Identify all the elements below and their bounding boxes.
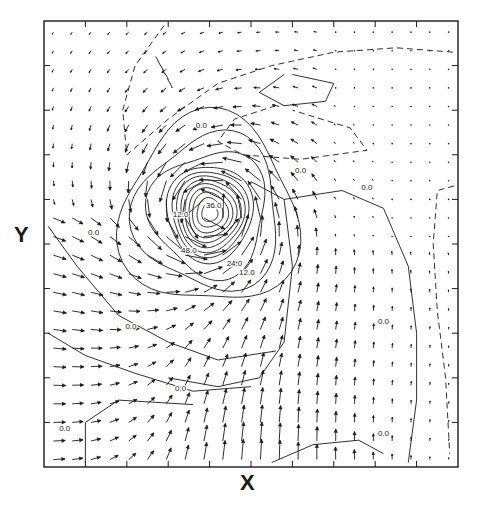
contour-label: 0.0 (361, 183, 373, 192)
contour-label: 0.0 (88, 228, 100, 237)
contour-label: 24.0 (227, 259, 243, 268)
plot-frame (44, 21, 458, 467)
y-axis-label: Y (14, 222, 29, 248)
contour-label: 0.0 (378, 429, 390, 438)
contour-label: 0.0 (59, 424, 71, 433)
contour-label: 12.0 (173, 210, 189, 219)
contour-label: 0.0 (125, 322, 137, 331)
contour-lines (48, 26, 454, 463)
contour-label: 0.0 (378, 317, 390, 326)
vector-field-plot: 0.00.00.012.036.048.024.012.00.00.00.00.… (0, 0, 477, 509)
contour-label: 48.0 (181, 246, 197, 255)
contour-label: 0.0 (175, 384, 187, 393)
wind-vectors (52, 31, 449, 461)
contour-label: 12.0 (239, 268, 255, 277)
x-axis-label: X (240, 470, 255, 496)
contour-label: 36.0 (206, 201, 222, 210)
contour-label: 0.0 (196, 121, 208, 130)
contour-label: 0.0 (295, 166, 307, 175)
